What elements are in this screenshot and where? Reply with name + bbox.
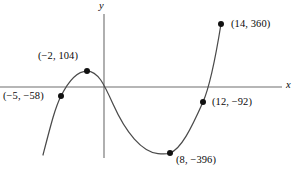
cubic-graph-figure: (−5, −58) (−2, 104) (8, −396) (12, −92) … [0, 0, 298, 169]
x-axis-label: x [286, 80, 291, 91]
data-point-p3 [200, 99, 206, 105]
data-point-p0 [58, 93, 64, 99]
data-point-p4 [218, 21, 224, 27]
point-label-p1: (−2, 104) [38, 51, 78, 62]
cubic-curve [43, 24, 221, 155]
y-axis-label: y [99, 1, 104, 12]
point-label-p3: (12, −92) [212, 97, 252, 108]
point-label-p0: (−5, −58) [3, 91, 44, 102]
data-point-p2 [167, 150, 173, 156]
point-label-p4: (14, 360) [231, 19, 270, 30]
data-point-p1 [84, 68, 90, 74]
point-label-p2: (8, −396) [176, 155, 216, 166]
